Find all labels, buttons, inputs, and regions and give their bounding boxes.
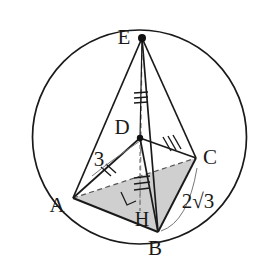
label-point-E: E	[118, 25, 131, 49]
label-point-C: C	[203, 145, 217, 169]
label-point-A: A	[49, 193, 65, 217]
diagram-canvas: E D C A B H 3 2√3	[0, 0, 269, 267]
measure-label-BC: 2√3	[182, 189, 215, 213]
label-point-B: B	[148, 236, 162, 260]
edge-EA	[73, 38, 142, 198]
geometry-figure: E D C A B H 3 2√3	[0, 0, 269, 267]
vertex-dot-D	[137, 135, 143, 141]
vertex-dot-E	[138, 34, 146, 42]
label-point-D: D	[114, 115, 129, 139]
measure-label-AD: 3	[94, 147, 105, 171]
label-point-H: H	[135, 208, 149, 230]
